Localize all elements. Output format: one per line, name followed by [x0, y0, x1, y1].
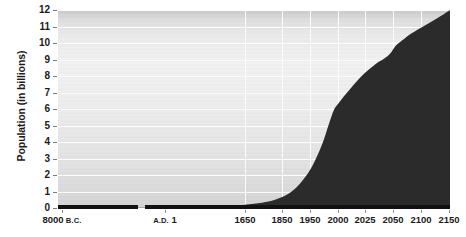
x-axis-tick	[421, 210, 422, 213]
y-axis-tick-label: 4	[28, 136, 50, 147]
x-axis-tick	[282, 210, 283, 213]
population-area-series	[58, 10, 450, 208]
y-axis-title: Population (in billions)	[15, 6, 27, 206]
x-axis-tick-label: 8000 B.C.	[43, 214, 82, 225]
y-axis-tick-label: 9	[28, 54, 50, 65]
y-axis-tick-label: 0	[28, 202, 50, 213]
x-axis-tick-label: 1850	[271, 214, 292, 225]
y-axis-tick	[53, 10, 57, 11]
x-axis-tick-label: 2000	[327, 214, 348, 225]
x-axis-tick-label: 2100	[410, 214, 431, 225]
y-axis-tick	[53, 175, 57, 176]
y-axis-tick-label: 12	[28, 4, 50, 15]
x-axis-line-right	[145, 205, 450, 209]
x-axis-tick-label: 1950	[299, 214, 320, 225]
x-axis-tick	[245, 210, 246, 213]
plot-area	[58, 10, 450, 208]
y-axis-tick-label: 6	[28, 103, 50, 114]
y-axis-tick	[53, 109, 57, 110]
x-axis-tick-label: 1650	[234, 214, 255, 225]
y-axis-tick	[53, 126, 57, 127]
x-axis-line-left	[58, 205, 138, 209]
x-axis-tick	[62, 210, 63, 213]
y-axis-tick	[53, 27, 57, 28]
y-axis-tick	[53, 76, 57, 77]
population-growth-chart: Population (in billions) 012345678910111…	[0, 0, 466, 237]
x-axis-tick-label: 2025	[354, 214, 375, 225]
x-axis-tick	[449, 210, 450, 213]
y-axis-tick	[53, 60, 57, 61]
x-axis-tick-label: 2150	[438, 214, 459, 225]
x-axis-tick	[165, 210, 166, 213]
y-axis-tick-label: 5	[28, 120, 50, 131]
y-axis-tick-label: 11	[28, 21, 50, 32]
y-axis-tick-label: 2	[28, 169, 50, 180]
x-axis-tick-label: 2050	[382, 214, 403, 225]
y-axis-tick	[53, 159, 57, 160]
x-axis-tick	[365, 210, 366, 213]
x-axis-tick	[393, 210, 394, 213]
y-axis-tick-label: 1	[28, 186, 50, 197]
x-axis-tick	[310, 210, 311, 213]
y-axis-tick-label: 8	[28, 70, 50, 81]
x-axis-tick-label: A.D. 1	[153, 214, 177, 225]
y-axis-tick-label: 10	[28, 37, 50, 48]
y-axis-tick	[53, 43, 57, 44]
y-axis-tick-label: 7	[28, 87, 50, 98]
y-axis-tick	[53, 192, 57, 193]
y-axis-tick	[53, 142, 57, 143]
x-axis-tick	[338, 210, 339, 213]
y-axis-tick	[53, 208, 57, 209]
y-axis-tick-label: 3	[28, 153, 50, 164]
y-axis-tick	[53, 93, 57, 94]
